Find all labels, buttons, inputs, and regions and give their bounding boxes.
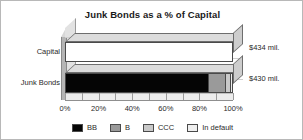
legend-swatch xyxy=(110,124,121,132)
x-axis-tick xyxy=(233,93,234,100)
x-axis-line xyxy=(65,100,233,101)
category-label: Junk Bonds xyxy=(21,78,60,87)
x-axis-tick xyxy=(216,93,217,100)
x-axis-tick xyxy=(149,93,150,100)
x-axis-tick-label: 20% xyxy=(91,104,106,113)
legend-label: CCC xyxy=(158,123,174,132)
legend-label: BB xyxy=(87,123,97,132)
legend-item[interactable]: BB xyxy=(72,123,97,132)
legend-item[interactable]: B xyxy=(110,123,130,132)
legend-swatch xyxy=(72,124,83,132)
chart-legend: BBBCCCIn default xyxy=(1,123,303,132)
plot-area: CapitalJunk Bonds $434 mil.$430 mil. 0%2… xyxy=(1,1,303,140)
x-axis-tick xyxy=(183,93,184,100)
x-axis-tick-label: 60% xyxy=(158,104,173,113)
bar-top-face xyxy=(65,33,243,42)
x-axis-tick xyxy=(115,93,116,100)
bar-segment xyxy=(65,42,233,62)
bar-value-label: $434 mil. xyxy=(249,43,279,52)
legend-swatch xyxy=(187,124,198,132)
bar-end-cap xyxy=(233,24,243,53)
category-label: Capital xyxy=(37,47,60,56)
legend-swatch xyxy=(143,124,154,132)
x-axis-tick xyxy=(65,93,66,100)
bar-top-face xyxy=(65,64,243,73)
legend-label: In default xyxy=(202,123,233,132)
bar-segment xyxy=(65,73,209,93)
x-axis-tick xyxy=(132,93,133,100)
x-axis-tick-label: 40% xyxy=(125,104,140,113)
x-axis-tick-label: 80% xyxy=(192,104,207,113)
x-axis-tick xyxy=(166,93,167,100)
legend-item[interactable]: CCC xyxy=(143,123,174,132)
x-axis-tick xyxy=(199,93,200,100)
x-axis-tick-label: 100% xyxy=(223,104,242,113)
bar-segment xyxy=(209,73,226,93)
legend-item[interactable]: In default xyxy=(187,123,233,132)
bar-value-label: $430 mil. xyxy=(249,74,279,83)
chart-container: Junk Bonds as a % of Capital CapitalJunk… xyxy=(0,0,303,140)
x-axis-tick xyxy=(82,93,83,100)
x-axis-tick-label: 0% xyxy=(60,104,71,113)
legend-label: B xyxy=(125,123,130,132)
x-axis-tick xyxy=(99,93,100,100)
